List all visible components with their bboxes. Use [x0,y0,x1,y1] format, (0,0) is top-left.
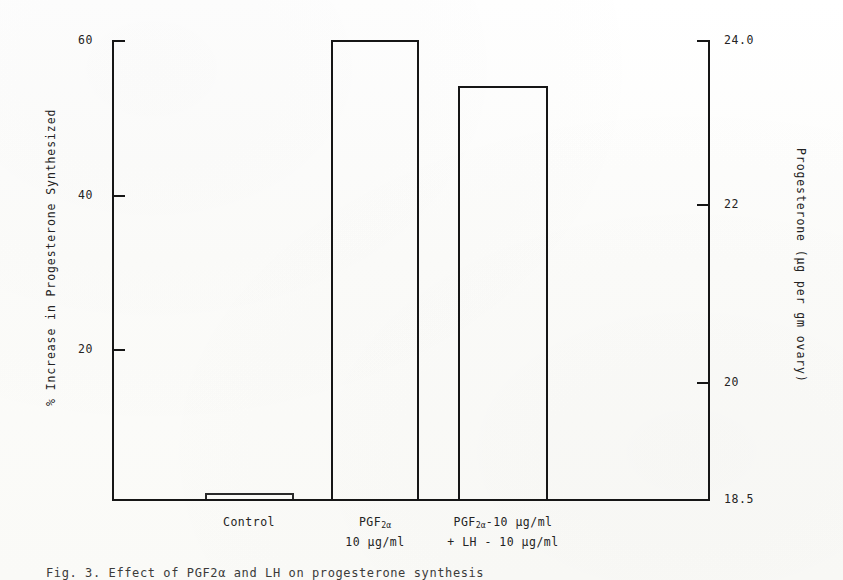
left-tick-40 [114,195,125,197]
category-pgf-lh-line1: PGF2α-10 µg/ml [447,514,558,534]
category-pgf-line2: 10 µg/ml [345,534,404,551]
category-label-pgf2alpha-lh: PGF2α-10 µg/ml + LH - 10 µg/ml [447,514,558,551]
right-tick-label-22: 22 [724,197,739,211]
category-pgf-line1: PGF2α [345,514,404,534]
category-pgf-lh-suffix: -10 µg/ml [486,515,553,529]
right-axis-line [708,40,710,501]
category-pgf-lh-prefix: PGF [453,515,475,529]
right-tick-label-20: 20 [724,375,739,389]
category-label-control: Control [223,514,275,531]
bar-pgf2alpha [331,40,419,499]
left-tick-60 [114,40,125,42]
right-tick-label-18-5: 18.5 [724,492,754,506]
figure-container: 60 40 20 24.0 22 20 18.5 % Increase in P… [0,0,843,580]
right-tick-20 [697,382,708,384]
chart-plot-area: 60 40 20 24.0 22 20 18.5 % Increase in P… [0,0,843,580]
right-axis-title: Progesterone (µg per gm ovary) [794,148,808,383]
right-tick-label-24: 24.0 [724,33,754,47]
bar-control [205,493,294,499]
right-tick-24 [697,40,708,42]
category-label-pgf2alpha: PGF2α 10 µg/ml [345,514,404,551]
left-axis-line [112,40,114,501]
category-pgf-prefix: PGF [359,515,381,529]
left-tick-label-40: 40 [78,188,93,202]
left-axis-title: % Increase in Progesterone Synthesized [44,109,58,406]
category-pgf-lh-subscript: 2α [476,520,486,530]
right-tick-22 [697,204,708,206]
category-pgf-subscript: 2α [381,520,391,530]
bar-pgf2alpha-lh [458,86,548,499]
left-tick-20 [114,349,125,351]
left-tick-label-60: 60 [78,33,93,47]
figure-caption: Fig. 3. Effect of PGF2α and LH on proges… [46,566,484,580]
left-tick-label-20: 20 [78,342,93,356]
category-pgf-lh-line2: + LH - 10 µg/ml [447,534,558,551]
category-control-line1: Control [223,514,275,531]
